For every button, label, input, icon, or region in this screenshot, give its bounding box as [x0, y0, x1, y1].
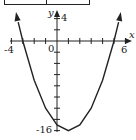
x-max-label: 6	[121, 45, 127, 55]
y-min-label: -16	[36, 125, 52, 135]
y-max-label: 4	[61, 13, 67, 23]
x-min-label: -4	[4, 45, 14, 55]
origin-label: 0	[48, 44, 54, 54]
y-axis-arrow-icon	[54, 10, 60, 17]
curve-left-arrow-icon	[15, 12, 21, 22]
curve-right-arrow-icon	[116, 12, 122, 22]
x-axis-label: x	[129, 30, 135, 40]
y-axis-label: y	[48, 8, 54, 18]
y-axis	[54, 10, 60, 132]
parabola-graph	[0, 0, 136, 140]
